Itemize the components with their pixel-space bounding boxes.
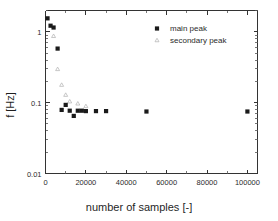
data-point-main-peak bbox=[245, 109, 249, 113]
x-tick-label: 60000 bbox=[156, 178, 177, 187]
series-main-peak bbox=[45, 16, 249, 118]
data-point-secondary-peak bbox=[60, 83, 64, 87]
data-point-main-peak bbox=[60, 108, 64, 112]
data-point-main-peak bbox=[76, 109, 80, 113]
data-point-secondary-peak bbox=[56, 67, 60, 71]
y-tick-label: 0.1 bbox=[31, 99, 41, 108]
data-point-main-peak bbox=[56, 46, 60, 50]
x-axis-tick-labels: 020000400006000080000100000 bbox=[43, 178, 260, 187]
x-tick-label: 100000 bbox=[235, 178, 260, 187]
x-tick-label: 80000 bbox=[197, 178, 218, 187]
y-tick-label: 1 bbox=[37, 28, 41, 37]
data-point-main-peak bbox=[80, 109, 84, 113]
x-tick-label: 40000 bbox=[116, 178, 137, 187]
x-tick-label: 20000 bbox=[75, 178, 96, 187]
chart-figure: 020000400006000080000100000 10.10.01 mai… bbox=[0, 0, 278, 221]
scatter-plot: 020000400006000080000100000 10.10.01 mai… bbox=[0, 0, 278, 221]
data-point-main-peak bbox=[94, 109, 98, 113]
series-secondary-peak bbox=[52, 34, 88, 108]
data-point-main-peak bbox=[68, 109, 72, 113]
legend-marker-main-peak bbox=[155, 26, 159, 30]
data-point-main-peak bbox=[45, 16, 49, 20]
data-point-secondary-peak bbox=[76, 102, 80, 106]
x-axis-title: number of samples [-] bbox=[86, 201, 192, 213]
data-point-main-peak bbox=[144, 109, 148, 113]
data-point-main-peak bbox=[104, 109, 108, 113]
data-point-main-peak bbox=[51, 25, 55, 29]
data-point-secondary-peak bbox=[52, 34, 56, 38]
chart-legend: main peaksecondary peak bbox=[155, 24, 228, 45]
data-point-secondary-peak bbox=[84, 104, 88, 108]
data-point-main-peak bbox=[84, 109, 88, 113]
x-tick-label: 0 bbox=[43, 178, 47, 187]
legend-label: main peak bbox=[170, 24, 208, 33]
y-tick-label: 0.01 bbox=[27, 170, 42, 179]
legend-marker-secondary-peak bbox=[155, 38, 159, 42]
y-axis-tick-labels: 10.10.01 bbox=[27, 28, 42, 179]
data-point-main-peak bbox=[72, 114, 76, 118]
data-point-secondary-peak bbox=[68, 99, 72, 103]
legend-label: secondary peak bbox=[170, 36, 227, 45]
data-point-secondary-peak bbox=[64, 93, 68, 97]
data-point-main-peak bbox=[64, 103, 68, 107]
y-axis-title: f [Hz] bbox=[4, 92, 16, 118]
